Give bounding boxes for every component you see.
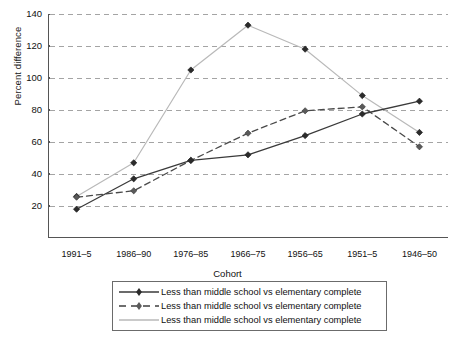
legend-label-series-3: Less than middle school vs elementary co… [161, 315, 362, 326]
y-tick-label-100: 100 [10, 73, 42, 83]
x-tick-label-3: 1966–75 [218, 249, 278, 259]
data-point-s1-2 [188, 157, 194, 163]
x-axis-title: Cohort [0, 268, 455, 279]
x-tick-label-6: 1946–50 [389, 249, 449, 259]
data-point-s3-6 [416, 129, 422, 135]
legend-item-series-1[interactable]: Less than middle school vs elementary co… [117, 285, 382, 299]
legend-label-series-2: Less than middle school vs elementary co… [161, 301, 362, 312]
y-tick-label-60: 60 [10, 137, 42, 147]
data-point-s2-1 [131, 188, 137, 194]
data-point-s1-1 [131, 176, 137, 182]
data-point-s3-1 [131, 160, 137, 166]
data-point-s1-6 [416, 98, 422, 104]
legend-label-series-1: Less than middle school vs elementary co… [161, 287, 362, 298]
y-tick-label-40: 40 [10, 169, 42, 179]
chart-legend: Less than middle school vs elementary co… [112, 281, 387, 331]
x-tick-label-4: 1956–65 [275, 249, 335, 259]
legend-item-series-2[interactable]: Less than middle school vs elementary co… [117, 299, 382, 313]
data-point-s1-0 [73, 206, 79, 212]
data-point-s2-5 [359, 104, 365, 110]
chart-figure: Percent difference 20406080100120140 199… [0, 0, 455, 337]
x-tick-label-0: 1991–5 [47, 249, 107, 259]
y-tick-label-140: 140 [10, 9, 42, 19]
data-point-s2-3 [245, 130, 251, 136]
x-tick-label-1: 1986–90 [104, 249, 164, 259]
x-tick-label-5: 1951–5 [332, 249, 392, 259]
data-point-s1-4 [302, 133, 308, 139]
legend-swatch-light-line-icon [117, 313, 161, 327]
data-point-s1-3 [245, 152, 251, 158]
y-tick-label-20: 20 [10, 201, 42, 211]
legend-item-series-3[interactable]: Less than middle school vs elementary co… [117, 313, 382, 327]
legend-swatch-solid-line-icon [117, 285, 161, 299]
legend-swatch-dashed-line-icon [117, 299, 161, 313]
plot-area [48, 14, 448, 238]
data-point-s2-4 [302, 108, 308, 114]
y-tick-label-80: 80 [10, 105, 42, 115]
x-tick-label-2: 1976–85 [161, 249, 221, 259]
data-point-s1-5 [359, 111, 365, 117]
plot-canvas [48, 14, 448, 238]
y-tick-label-120: 120 [10, 41, 42, 51]
